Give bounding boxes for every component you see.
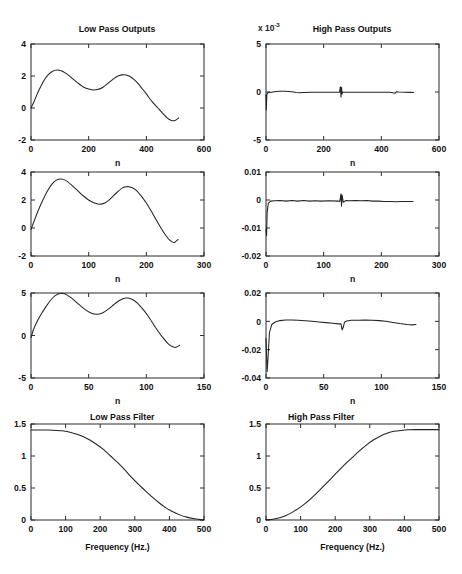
data-curve	[31, 430, 204, 520]
data-curve	[266, 194, 413, 236]
data-curve	[31, 70, 179, 121]
y-tick-label: 2	[21, 195, 26, 205]
x-tick-label: 200	[93, 524, 108, 534]
panel-title: Low Pass Filter	[90, 412, 155, 422]
x-tick-label: 0	[264, 382, 269, 392]
y-tick-label: -5	[18, 373, 26, 383]
x-tick-label: 100	[293, 524, 308, 534]
y-tick-label: 4	[21, 39, 26, 49]
plot-frame	[266, 424, 439, 520]
x-tick-label: 50	[319, 382, 329, 392]
y-tick-label: 2	[21, 71, 26, 81]
x-axis-label: Frequency (Hz.)	[320, 542, 385, 552]
plot-frame	[266, 293, 439, 378]
y-tick-label: 0	[21, 331, 26, 341]
x-tick-label: 200	[328, 524, 343, 534]
plot-panel-low-pass-outputs-3: 050100150-505n	[0, 267, 218, 408]
plot-frame	[266, 172, 439, 256]
y-tick-label: -0.04	[241, 373, 261, 383]
data-curve	[266, 87, 414, 110]
y-tick-label: 0.02	[244, 288, 261, 298]
x-tick-label: 400	[397, 524, 412, 534]
x-tick-label: 300	[363, 524, 378, 534]
y-tick-label: -0.02	[241, 251, 261, 261]
data-curve	[31, 293, 180, 347]
x-tick-label: 100	[139, 382, 154, 392]
plot-frame	[31, 424, 204, 520]
x-tick-label: 0	[264, 524, 269, 534]
y-tick-label: 0	[256, 317, 261, 327]
exponent-base: x 10	[258, 23, 274, 33]
plot-panel-high-pass-outputs-3: 050100150-0.04-0.0200.02n	[232, 267, 453, 408]
y-tick-label: -0.02	[241, 345, 261, 355]
panel-title: High Pass Filter	[288, 412, 354, 422]
y-tick-label: 1.5	[249, 419, 261, 429]
panel-title: Low Pass Outputs	[79, 24, 156, 34]
y-tick-label: -2	[18, 135, 26, 145]
figure-canvas: 0200400600-2024nLow Pass Outputs02004006…	[0, 0, 462, 574]
y-tick-label: 1	[256, 451, 261, 461]
plot-frame	[31, 293, 204, 378]
x-tick-label: 50	[84, 382, 94, 392]
y-tick-label: -2	[18, 251, 26, 261]
y-tick-label: 0.01	[244, 167, 261, 177]
y-tick-label: 0	[21, 103, 26, 113]
x-tick-label: 0	[29, 524, 34, 534]
x-tick-label: 300	[128, 524, 143, 534]
x-tick-label: 500	[197, 524, 212, 534]
y-tick-label: 1	[21, 451, 26, 461]
plot-panel-low-pass-outputs-2: 0100200300-2024n	[0, 146, 218, 286]
panel-title: High Pass Outputs	[313, 24, 392, 34]
x-tick-label: 100	[374, 382, 389, 392]
y-tick-label: 0	[21, 223, 26, 233]
plot-panel-high-pass-outputs-2: 0100200300-0.02-0.0100.01n	[232, 146, 453, 286]
x-tick-label: 100	[58, 524, 73, 534]
plot-frame	[31, 172, 204, 256]
y-tick-label: 1.5	[14, 419, 26, 429]
y-tick-label: 0	[256, 195, 261, 205]
data-curve	[266, 320, 416, 372]
y-tick-label: 4	[21, 167, 26, 177]
x-tick-label: 400	[162, 524, 177, 534]
exponent-power: -3	[274, 21, 280, 28]
x-tick-label: 0	[29, 382, 34, 392]
plot-frame	[31, 44, 204, 140]
y-tick-label: 5	[256, 39, 261, 49]
exponent-annotation: x 10-3	[258, 21, 280, 33]
data-curve	[31, 179, 178, 243]
y-tick-label: 0	[256, 87, 261, 97]
y-tick-label: 0.5	[249, 483, 261, 493]
data-curve	[266, 430, 439, 520]
y-tick-label: -0.01	[241, 223, 261, 233]
y-tick-label: 0	[21, 515, 26, 525]
y-tick-label: -5	[253, 135, 261, 145]
x-tick-label: 150	[197, 382, 212, 392]
y-tick-label: 5	[21, 288, 26, 298]
y-tick-label: 0	[256, 515, 261, 525]
x-tick-label: 150	[432, 382, 447, 392]
y-tick-label: 0.5	[14, 483, 26, 493]
x-tick-label: 500	[432, 524, 447, 534]
x-axis-label: Frequency (Hz.)	[85, 542, 150, 552]
